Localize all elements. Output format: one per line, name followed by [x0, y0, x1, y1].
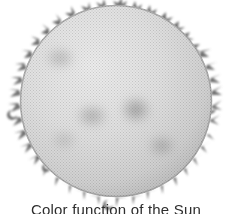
sunspot-center-left	[75, 104, 109, 128]
sunspot-lower-right	[147, 135, 177, 157]
sunspot-lower-left	[50, 130, 78, 150]
sunspot-upper-left	[44, 47, 76, 69]
sunspot-center	[120, 96, 152, 124]
sun-figure: Color function of the Sun	[0, 0, 232, 214]
figure-caption: Color function of the Sun	[0, 202, 232, 214]
sun-illustration	[0, 0, 232, 214]
